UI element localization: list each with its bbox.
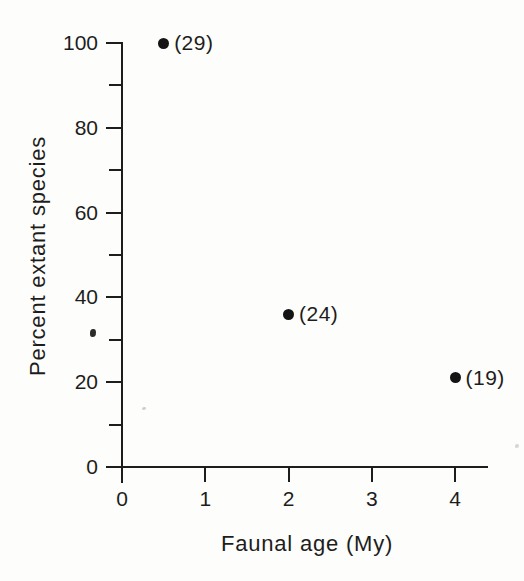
data-point-annotation: (29) xyxy=(174,29,213,57)
y-tick-label: 20 xyxy=(18,369,98,395)
scatter-figure: Percent extant species Faunal age (My) 0… xyxy=(0,0,524,581)
y-tick-label: 0 xyxy=(18,454,98,480)
x-tick xyxy=(204,467,206,482)
data-point-annotation: (24) xyxy=(299,300,338,328)
y-major-tick xyxy=(106,296,122,298)
scan-speck xyxy=(142,407,146,410)
scan-speck xyxy=(90,329,96,337)
x-axis-line xyxy=(106,466,488,468)
y-major-tick xyxy=(106,42,122,44)
y-minor-tick xyxy=(109,424,122,426)
x-tick-label: 2 xyxy=(267,486,311,512)
y-major-tick xyxy=(106,212,122,214)
y-tick-label: 40 xyxy=(18,284,98,310)
y-axis-line xyxy=(121,42,123,483)
y-tick-label: 100 xyxy=(18,30,98,56)
x-tick-label: 0 xyxy=(100,486,144,512)
y-major-tick xyxy=(106,127,122,129)
y-tick-label: 80 xyxy=(18,115,98,141)
data-point xyxy=(283,309,294,320)
y-axis-title: Percent extant species xyxy=(25,106,51,406)
x-axis-title: Faunal age (My) xyxy=(157,530,457,558)
y-minor-tick xyxy=(109,84,122,86)
x-tick xyxy=(121,467,123,482)
data-point xyxy=(450,372,461,383)
y-tick-label: 60 xyxy=(18,200,98,226)
y-major-tick xyxy=(106,381,122,383)
scan-speck xyxy=(515,444,519,448)
data-point-annotation: (19) xyxy=(466,364,505,392)
y-minor-tick xyxy=(109,339,122,341)
x-tick-label: 3 xyxy=(350,486,394,512)
x-tick xyxy=(371,467,373,482)
y-minor-tick xyxy=(109,169,122,171)
x-tick-label: 4 xyxy=(433,486,477,512)
x-tick xyxy=(288,467,290,482)
y-major-tick xyxy=(106,466,122,468)
data-point xyxy=(158,38,169,49)
x-tick xyxy=(454,467,456,482)
x-tick-label: 1 xyxy=(183,486,227,512)
y-minor-tick xyxy=(109,254,122,256)
